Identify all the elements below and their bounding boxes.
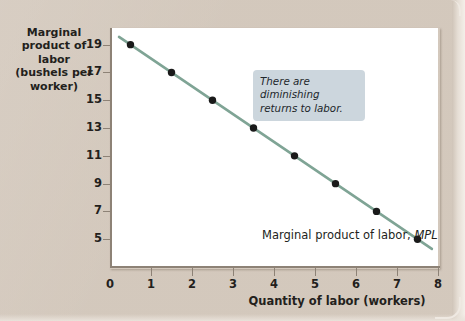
data-point-marker [373, 208, 380, 215]
data-point-marker [291, 152, 298, 159]
annotation-callout: There are diminishing returns to labor. [253, 70, 365, 121]
x-axis-title: Quantity of labor (workers) [238, 294, 436, 308]
chart-series-svg [0, 0, 465, 321]
data-point-marker [168, 69, 175, 76]
series-label-text: Marginal product of labor, [262, 228, 411, 242]
data-point-marker [250, 124, 257, 131]
data-point-marker [209, 97, 216, 104]
annotation-line-1: There are diminishing [260, 75, 358, 102]
series-label: Marginal product of labor, MPL [262, 228, 438, 242]
page-edge-right [452, 0, 465, 321]
page-edge-bottom [0, 314, 465, 321]
figure-panel: Marginal product of labor (bushels per w… [0, 0, 465, 321]
data-point-marker [127, 41, 134, 48]
series-label-mpl: MPL [414, 228, 437, 242]
data-point-marker [332, 180, 339, 187]
page-corner-top-right [435, 0, 461, 16]
series-line-mpl [119, 37, 432, 249]
annotation-line-2: returns to labor. [260, 102, 358, 115]
